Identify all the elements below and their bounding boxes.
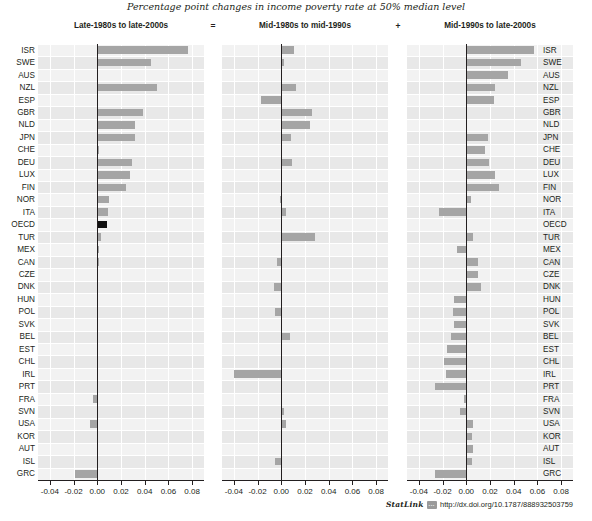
- bar-chl: [444, 358, 466, 365]
- vertical-gridline: [490, 44, 491, 480]
- country-label-kor: KOR: [1, 432, 35, 441]
- x-axis-tick: [74, 481, 75, 485]
- bar-irl: [446, 370, 467, 377]
- country-label-hun: HUN: [1, 295, 35, 304]
- country-label-mex: MEX: [1, 245, 35, 254]
- bar-mex: [457, 246, 466, 253]
- country-label-pol: POL: [1, 307, 35, 316]
- bar-esp: [466, 96, 493, 103]
- x-axis-tick: [514, 481, 515, 485]
- bar-jpn: [97, 134, 135, 141]
- vertical-gridline: [419, 44, 420, 480]
- statlink-url[interactable]: http://dx.doi.org/10.1787/888932503759: [440, 500, 573, 509]
- x-axis-tick: [50, 481, 51, 485]
- country-label-jpn: JPN: [543, 133, 577, 142]
- x-axis-tick: [561, 481, 562, 485]
- bar-jpn: [466, 134, 487, 141]
- zero-axis-line: [466, 44, 467, 480]
- bar-svk: [454, 321, 466, 328]
- x-axis-tick: [258, 481, 259, 485]
- bar-aut: [466, 445, 473, 452]
- bar-grc: [75, 470, 97, 477]
- bar-fin: [97, 184, 126, 191]
- x-axis-tick: [192, 481, 193, 485]
- x-axis-tick: [121, 481, 122, 485]
- country-label-prt: PRT: [543, 382, 577, 391]
- vertical-gridline: [234, 44, 235, 480]
- bar-gbr: [97, 109, 143, 116]
- x-axis-tick-label: 0.08: [544, 487, 578, 496]
- zero-axis-line: [281, 44, 282, 480]
- country-label-pol: POL: [543, 307, 577, 316]
- vertical-gridline: [376, 44, 377, 480]
- country-label-ita: ITA: [543, 208, 577, 217]
- statlink-footer[interactable]: StatLink ··· http://dx.doi.org/10.1787/8…: [386, 500, 573, 509]
- bar-jpn: [281, 134, 291, 141]
- bar-che: [466, 146, 484, 153]
- x-axis-tick: [305, 481, 306, 485]
- bar-fin: [466, 184, 499, 191]
- bar-isr: [466, 46, 534, 53]
- bar-pol: [453, 308, 466, 315]
- country-label-swe: SWE: [1, 58, 35, 67]
- panel-heading-right: Mid-1990s to late-2000s: [380, 21, 592, 30]
- vertical-gridline: [514, 44, 515, 480]
- country-label-svn: SVN: [543, 407, 577, 416]
- country-label-svk: SVK: [1, 320, 35, 329]
- country-label-deu: DEU: [543, 158, 577, 167]
- vertical-gridline: [145, 44, 146, 480]
- x-axis-tick: [443, 481, 444, 485]
- bar-nzl: [281, 84, 296, 91]
- country-label-mex: MEX: [543, 245, 577, 254]
- country-label-est: EST: [543, 345, 577, 354]
- country-label-nor: NOR: [1, 195, 35, 204]
- country-label-can: CAN: [1, 258, 35, 267]
- bar-usa: [466, 420, 473, 427]
- bar-lux: [466, 171, 494, 178]
- bar-lux: [97, 171, 130, 178]
- country-label-ita: ITA: [1, 208, 35, 217]
- country-label-nld: NLD: [1, 120, 35, 129]
- bar-prt: [435, 383, 466, 390]
- country-label-nor: NOR: [543, 195, 577, 204]
- country-label-dnk: DNK: [543, 282, 577, 291]
- bar-nor: [97, 196, 109, 203]
- bar-cze: [466, 271, 477, 278]
- country-label-che: CHE: [543, 145, 577, 154]
- panel-late1980s-to-late2000s: [38, 44, 204, 480]
- panel-mid1980s-to-mid1990s: [222, 44, 388, 480]
- country-label-isl: ISL: [1, 457, 35, 466]
- country-label-isr: ISR: [1, 46, 35, 55]
- country-label-nld: NLD: [543, 120, 577, 129]
- plot-area: [38, 44, 204, 480]
- x-axis-tick: [97, 481, 98, 485]
- bar-isr: [97, 46, 188, 53]
- country-label-gbr: GBR: [543, 108, 577, 117]
- country-label-fra: FRA: [1, 395, 35, 404]
- bar-irl: [234, 370, 281, 377]
- bar-bel: [281, 333, 289, 340]
- x-axis-tick-label: 0.08: [175, 487, 209, 496]
- vertical-gridline: [537, 44, 538, 480]
- statlink-label: StatLink: [386, 500, 424, 509]
- bar-nld: [281, 121, 309, 128]
- x-axis-tick: [376, 481, 377, 485]
- bar-bel: [451, 333, 466, 340]
- country-label-svn: SVN: [1, 407, 35, 416]
- country-label-deu: DEU: [1, 158, 35, 167]
- country-label-usa: USA: [1, 419, 35, 428]
- country-label-esp: ESP: [1, 96, 35, 105]
- vertical-gridline: [443, 44, 444, 480]
- x-axis-tick: [168, 481, 169, 485]
- bar-aus: [466, 71, 508, 78]
- country-label-est: EST: [1, 345, 35, 354]
- country-label-prt: PRT: [1, 382, 35, 391]
- bar-tur: [466, 233, 473, 240]
- vertical-gridline: [352, 44, 353, 480]
- bar-oecd: [97, 221, 106, 228]
- country-label-fin: FIN: [1, 183, 35, 192]
- country-label-dnk: DNK: [1, 282, 35, 291]
- x-axis-tick-label: 0.08: [359, 487, 393, 496]
- country-label-cze: CZE: [543, 270, 577, 279]
- bar-can: [466, 258, 477, 265]
